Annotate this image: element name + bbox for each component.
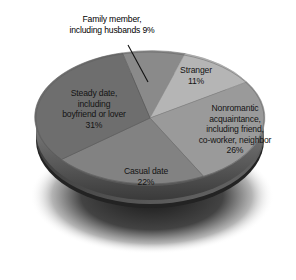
pie-label-steady: Steady date, including boyfriend or love… [42,88,146,130]
pie-chart: Family member, including husbands 9% Str… [0,0,296,280]
pie-label-family: Family member, including husbands 9% [46,14,178,35]
pie-label-casual: Casual date 22% [105,166,187,187]
pie-label-stranger: Stranger 11% [158,65,234,86]
pie-label-nonromantic: Nonromantic acquaintance, including frie… [183,103,287,156]
